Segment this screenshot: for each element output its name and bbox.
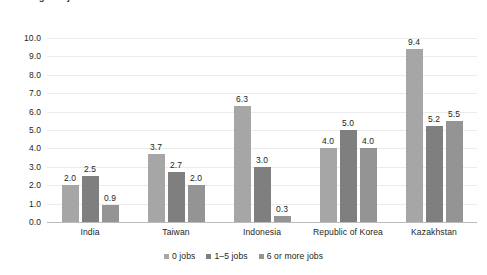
bar-group: 3.72.72.0 [133,38,219,222]
category-label: Republic of Korea [305,227,391,237]
legend-item[interactable]: 1–5 jobs [206,251,247,261]
bar[interactable]: 5.2 [426,126,443,222]
bar[interactable]: 3.0 [254,167,271,222]
legend-item[interactable]: 0 jobs [164,251,196,261]
bar[interactable]: 3.7 [148,154,165,222]
axis-baseline: 0.0 [47,222,477,223]
category-label: India [47,227,133,237]
bar-value-label: 4.0 [322,136,334,146]
bar-slot: 5.5 [446,38,463,222]
bar-group: 4.05.04.0 [305,38,391,222]
bar-value-label: 5.0 [342,118,354,128]
category-label: Indonesia [219,227,305,237]
legend-swatch-icon [164,254,169,259]
bar-groups: 2.02.50.93.72.72.06.33.00.34.05.04.09.45… [47,38,477,222]
legend-swatch-icon [206,254,211,259]
y-axis-tick-label: 4.0 [29,143,41,153]
bar-slot: 3.0 [254,38,271,222]
bar-value-label: 2.0 [190,173,202,183]
bar-value-label: 9.4 [408,37,420,47]
bar-slot: 2.5 [82,38,99,222]
bar-value-label: 5.2 [428,114,440,124]
category-label: Taiwan [133,227,219,237]
bar-slot: 2.0 [188,38,205,222]
legend-swatch-icon [259,254,264,259]
bar-slot: 2.7 [168,38,185,222]
bar-group: 2.02.50.9 [47,38,133,222]
bar[interactable]: 5.0 [340,130,357,222]
bar[interactable]: 2.0 [62,185,79,222]
bar-slot: 4.0 [360,38,377,222]
bar-value-label: 0.9 [104,193,116,203]
grouped-bar-chart: 0.01.02.03.04.05.06.07.08.09.010.0 2.02.… [0,9,487,275]
legend-item[interactable]: 6 or more jobs [259,251,323,261]
bar-value-label: 2.5 [84,164,96,174]
category-label: Kazakhstan [391,227,477,237]
chart-title-text: Annual gross job creation [4,0,121,2]
bar-slot: 9.4 [406,38,423,222]
bar[interactable]: 2.0 [188,185,205,222]
bar-value-label: 2.7 [170,160,182,170]
bar[interactable]: 2.7 [168,172,185,222]
y-axis-tick-label: 5.0 [29,125,41,135]
bar-value-label: 6.3 [236,94,248,104]
bar-slot: 4.0 [320,38,337,222]
bar-value-label: 3.0 [256,155,268,165]
bar[interactable]: 0.3 [274,216,291,222]
category-axis: IndiaTaiwanIndonesiaRepublic of KoreaKaz… [47,227,477,237]
y-axis-tick-label: 3.0 [29,162,41,172]
bar-value-label: 3.7 [150,142,162,152]
chart-title-clipped: Annual gross job creation [0,0,487,9]
y-axis-tick-label: 6.0 [29,107,41,117]
bar-slot: 5.2 [426,38,443,222]
bar[interactable]: 0.9 [102,205,119,222]
bar-value-label: 4.0 [362,136,374,146]
bar-slot: 0.9 [102,38,119,222]
bar-slot: 2.0 [62,38,79,222]
bar-slot: 3.7 [148,38,165,222]
bar[interactable]: 4.0 [320,148,337,222]
bar-slot: 5.0 [340,38,357,222]
bar-value-label: 2.0 [64,173,76,183]
legend-label: 1–5 jobs [214,251,247,261]
bar-slot: 6.3 [234,38,251,222]
y-axis-tick-label: 7.0 [29,88,41,98]
bar-group: 9.45.25.5 [391,38,477,222]
bar-slot: 0.3 [274,38,291,222]
y-axis-tick-label: 2.0 [29,180,41,190]
bar-group: 6.33.00.3 [219,38,305,222]
y-axis-tick-label: 1.0 [29,199,41,209]
bar-value-label: 5.5 [448,109,460,119]
bar[interactable]: 2.5 [82,176,99,222]
y-axis-tick-label: 8.0 [29,70,41,80]
bar[interactable]: 6.3 [234,106,251,222]
y-axis-tick-label: 10.0 [24,33,41,43]
bar[interactable]: 9.4 [406,49,423,222]
legend-label: 0 jobs [172,251,196,261]
bar[interactable]: 4.0 [360,148,377,222]
legend-label: 6 or more jobs [267,251,323,261]
chart-legend: 0 jobs1–5 jobs6 or more jobs [0,251,487,261]
y-axis-tick-label: 0.0 [29,217,41,227]
bar-value-label: 0.3 [276,204,288,214]
y-axis-tick-label: 9.0 [29,51,41,61]
bar[interactable]: 5.5 [446,121,463,222]
